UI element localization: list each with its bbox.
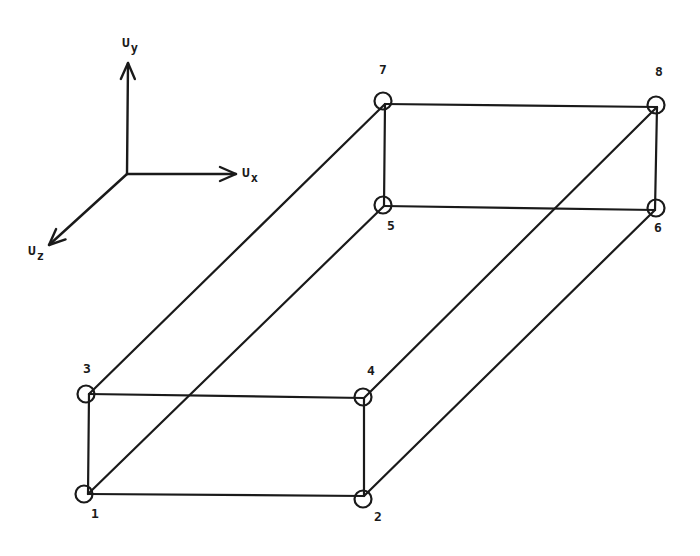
axis-uz-shaft <box>49 174 127 245</box>
element-edges <box>88 104 657 496</box>
node-label-2: 2 <box>374 510 382 523</box>
axis-subscript: z <box>37 249 44 263</box>
edge-1-3 <box>88 394 89 494</box>
edge-3-4 <box>89 394 364 398</box>
node-label-4: 4 <box>367 364 375 377</box>
edge-6-8 <box>655 107 657 210</box>
edge-1-2 <box>88 494 364 496</box>
node-label-3: 3 <box>83 362 91 375</box>
axis-label-ux: Ux <box>242 166 258 184</box>
node-label-8: 8 <box>655 65 663 78</box>
diagram-canvas <box>0 0 700 556</box>
axis-label-uz: Uz <box>28 244 44 262</box>
axis-subscript: y <box>131 41 138 55</box>
node-markers <box>76 93 665 508</box>
coordinate-axes <box>49 63 236 245</box>
node-label-6: 6 <box>654 221 662 234</box>
node-label-1: 1 <box>91 507 99 520</box>
axis-symbol: U <box>122 35 130 50</box>
axis-uy-shaft <box>127 63 128 174</box>
node-label-7: 7 <box>379 63 387 76</box>
axis-symbol: U <box>242 165 250 180</box>
axis-subscript: x <box>251 171 258 185</box>
hexahedron-diagram: Uy Ux Uz 1 2 3 4 5 6 7 8 <box>0 0 700 556</box>
node-label-5: 5 <box>387 219 395 232</box>
edge-7-8 <box>385 104 657 107</box>
edge-5-6 <box>384 206 655 210</box>
axis-label-uy: Uy <box>122 36 138 54</box>
edge-5-7 <box>384 104 385 206</box>
axis-symbol: U <box>28 243 36 258</box>
